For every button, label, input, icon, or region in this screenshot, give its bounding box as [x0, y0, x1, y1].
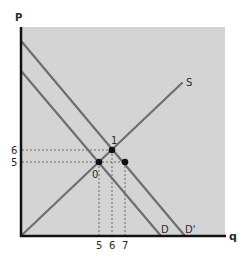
- y-tick-6: 6: [11, 145, 17, 156]
- demand-point-q7: [122, 159, 129, 166]
- demand-label: D: [161, 224, 169, 235]
- x-tick-7: 7: [122, 240, 128, 251]
- supply-label: S: [186, 77, 192, 88]
- supply-demand-chart: P q S D D' 0 1 6 5 5 6 7: [0, 0, 246, 261]
- p-axis-label: P: [15, 12, 22, 23]
- equilibrium-point-1: [109, 147, 116, 154]
- x-tick-5: 5: [96, 240, 102, 251]
- equilibrium-point-0: [96, 159, 103, 166]
- demand-shifted-label: D': [185, 224, 195, 235]
- y-tick-5: 5: [11, 157, 17, 168]
- q-axis-label: q: [229, 230, 237, 243]
- plot-panel: [21, 27, 225, 236]
- x-tick-6: 6: [109, 240, 115, 251]
- point-1-label: 1: [111, 135, 117, 146]
- point-0-label: 0: [92, 169, 98, 180]
